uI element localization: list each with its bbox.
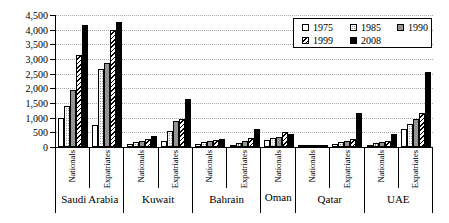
bar-2008 [254, 129, 260, 148]
x-axis: NationalsExpatriatesSaudi ArabiaNational… [55, 147, 433, 213]
group-label-row: NationalsExpatriates [365, 147, 432, 188]
group-bars [262, 15, 296, 147]
bar-2008 [356, 113, 362, 147]
group-label-cell: Expatriates [89, 147, 123, 188]
group-label-cell: Nationals [193, 147, 226, 188]
y-axis-tick-label: 3,000 [0, 54, 48, 65]
x-country-section: NationalsExpatriatesBahrain [193, 147, 261, 213]
bar-2008 [116, 22, 122, 147]
group-label-cell: Expatriates [398, 147, 432, 188]
group-label-row: Nationals [261, 147, 295, 186]
legend-item: 1999 [302, 35, 350, 46]
bar-2008 [288, 134, 294, 147]
x-country-section: NationalsExpatriatesQatar [296, 147, 364, 213]
legend-item: 1985 [350, 22, 397, 33]
x-country-section: NationalsOman [261, 147, 296, 213]
group-label: Nationals [68, 150, 77, 183]
country-label: Kuwait [124, 188, 191, 213]
y-axis-tick-label: 4,500 [0, 10, 48, 21]
bar-2008 [219, 139, 225, 148]
group-label-cell: Nationals [124, 147, 157, 188]
y-axis-tick-label: 0 [0, 142, 48, 153]
legend-label: 2008 [361, 35, 381, 46]
legend-box: 19751985199019992008 [293, 18, 432, 48]
x-country-section: NationalsExpatriatesKuwait [124, 147, 192, 213]
group-label-row: NationalsExpatriates [296, 147, 363, 188]
group-label: Nationals [377, 150, 386, 183]
legend-label: 1975 [313, 22, 333, 33]
group-label: Nationals [137, 150, 146, 183]
group-label-cell: Nationals [296, 147, 329, 188]
group-bars [56, 15, 90, 147]
group-label: Nationals [274, 150, 283, 183]
legend-swatch-1975 [302, 24, 309, 31]
group-label: Nationals [308, 150, 317, 183]
legend-item: 2008 [350, 35, 397, 46]
group-label-row: NationalsExpatriates [124, 147, 191, 188]
legend-swatch-2008 [350, 37, 357, 44]
group-label: Expatriates [411, 150, 420, 188]
y-axis-tick-label: 1,500 [0, 98, 48, 109]
group-label-row: NationalsExpatriates [56, 147, 123, 188]
bar-2008 [425, 72, 431, 147]
group-label: Expatriates [343, 150, 352, 188]
country-label: Oman [261, 186, 295, 213]
y-axis-tick-label: 1,000 [0, 113, 48, 124]
country-section [56, 15, 125, 147]
country-label: UAE [365, 188, 432, 213]
legend-swatch-1985 [350, 24, 357, 31]
group-bars [90, 15, 124, 147]
legend-label: 1985 [361, 22, 381, 33]
legend-item: 1990 [397, 22, 431, 33]
group-label-cell: Nationals [261, 147, 295, 186]
country-label: Bahrain [193, 188, 260, 213]
group-label-cell: Expatriates [158, 147, 192, 188]
x-country-section: NationalsExpatriatesSaudi Arabia [56, 147, 124, 213]
y-axis-tick-label: 2,500 [0, 69, 48, 80]
group-bars [193, 15, 227, 147]
legend-item: 1975 [302, 22, 350, 33]
country-label: Saudi Arabia [56, 188, 123, 213]
group-label-cell: Nationals [56, 147, 89, 188]
chart: 05001,0001,5002,0002,5003,0003,5004,0004… [0, 0, 449, 223]
group-bars [159, 15, 193, 147]
country-section [193, 15, 262, 147]
y-axis-tick-label: 500 [0, 127, 48, 138]
legend-label: 1999 [313, 35, 333, 46]
y-axis-tick-label: 4,000 [0, 25, 48, 36]
bar-2008 [391, 134, 397, 147]
country-section [125, 15, 194, 147]
group-label: Expatriates [171, 150, 180, 188]
group-label-cell: Expatriates [329, 147, 363, 188]
bar-2008 [151, 136, 157, 147]
legend-swatch-1999 [302, 37, 309, 44]
x-country-section: NationalsExpatriatesUAE [365, 147, 433, 213]
country-label: Qatar [296, 188, 363, 213]
group-label-cell: Expatriates [226, 147, 260, 188]
group-bars [227, 15, 261, 147]
group-bars [125, 15, 159, 147]
group-label: Expatriates [103, 150, 112, 188]
group-label-cell: Nationals [365, 147, 398, 188]
legend-label: 1990 [408, 22, 428, 33]
legend-swatch-1990 [397, 24, 404, 31]
bar-2008 [82, 25, 88, 147]
group-label-row: NationalsExpatriates [193, 147, 260, 188]
group-label: Expatriates [240, 150, 249, 188]
country-section [262, 15, 296, 147]
y-axis-tick-label: 3,500 [0, 39, 48, 50]
bar-2008 [185, 99, 191, 147]
group-label: Nationals [205, 150, 214, 183]
y-axis-tick-label: 2,000 [0, 83, 48, 94]
